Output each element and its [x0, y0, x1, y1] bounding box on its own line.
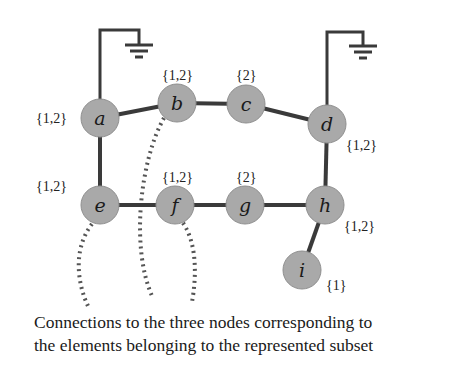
node-label: b [171, 92, 183, 114]
ground-a [100, 30, 153, 100]
ground-d [327, 32, 377, 106]
node-label: c [241, 93, 252, 115]
node-c: c [227, 85, 265, 123]
node-e: e [81, 186, 119, 224]
node-label: g [239, 194, 251, 216]
node-set-label-e: {1,2} [36, 179, 67, 194]
node-set-label-c: {2} [236, 68, 256, 83]
node-label: e [94, 194, 105, 216]
node-set-label-b: {1,2} [162, 68, 193, 83]
caption-line-2: the elements belonging to the represente… [34, 334, 373, 357]
node-b: b [158, 84, 196, 122]
node-label: i [299, 259, 305, 281]
node-label: d [321, 113, 333, 135]
caption-line-1: Connections to the three nodes correspon… [34, 311, 373, 334]
caption: Connections to the three nodes correspon… [34, 311, 373, 357]
node-h: h [306, 186, 344, 224]
subset-connection-e [79, 224, 92, 306]
node-set-label-h: {1,2} [344, 219, 375, 234]
node-g: g [226, 186, 264, 224]
node-set-label-i: {1} [326, 278, 346, 293]
node-f: f [156, 186, 194, 224]
node-label: h [319, 194, 331, 216]
subset-connection-f [183, 223, 195, 302]
node-i: i [283, 251, 321, 289]
node-set-label-a: {1,2} [36, 111, 67, 126]
node-set-label-f: {1,2} [162, 170, 193, 185]
node-a: a [81, 99, 119, 137]
node-set-label-d: {1,2} [346, 138, 377, 153]
node-set-label-g: {2} [236, 170, 256, 185]
node-d: d [308, 105, 346, 143]
node-label: a [94, 107, 105, 129]
